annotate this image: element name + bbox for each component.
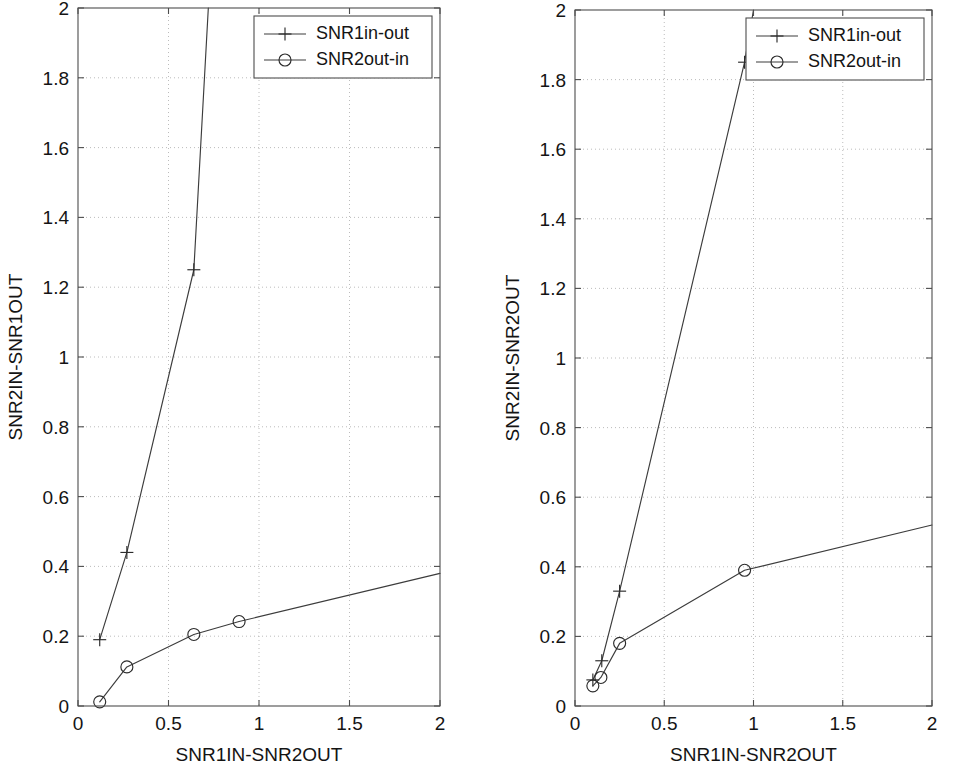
series-snr2out-in	[587, 525, 932, 692]
y-tick-label: 1.2	[43, 277, 69, 298]
grid-lines	[78, 8, 440, 706]
x-tick-label: 0.5	[155, 713, 181, 734]
plot-area-left: 00.511.5200.20.40.60.811.21.41.61.82SNR1…	[0, 0, 500, 773]
y-tick-label: 0.8	[43, 417, 69, 438]
series-snr1in-out	[93, 8, 208, 646]
legend-label: SNR2out-in	[808, 51, 901, 71]
x-tick-label: 1	[748, 713, 759, 734]
y-tick-label: 1.6	[540, 139, 566, 160]
series-group	[93, 8, 440, 708]
y-axis-title: SNR2IN-SNR1OUT	[5, 273, 26, 440]
chart-panel-left: 00.511.5200.20.40.60.811.21.41.61.82SNR1…	[0, 0, 500, 773]
y-tick-label: 0.2	[43, 626, 69, 647]
y-tick-label: 0.4	[540, 557, 567, 578]
legend-label: SNR1in-out	[316, 23, 409, 43]
y-tick-label: 1.6	[43, 138, 69, 159]
legend-label: SNR2out-in	[316, 49, 409, 69]
x-axis-title: SNR1IN-SNR2OUT	[176, 744, 343, 765]
x-tick-label: 0	[73, 713, 84, 734]
y-tick-label: 1.8	[43, 68, 69, 89]
y-tick-label: 0	[58, 696, 69, 717]
x-tick-label: 1.5	[830, 713, 856, 734]
x-tick-label: 0.5	[651, 713, 677, 734]
y-tick-label: 0.6	[43, 487, 69, 508]
series-path	[593, 525, 932, 686]
tick-labels: 00.511.5200.20.40.60.811.21.41.61.82	[43, 0, 446, 734]
y-axis-title: SNR2IN-SNR2OUT	[502, 274, 523, 441]
legend: SNR1in-outSNR2out-in	[254, 16, 432, 78]
y-tick-label: 0.2	[540, 626, 566, 647]
grid-lines	[575, 10, 932, 706]
series-group	[586, 10, 932, 692]
legend-label: SNR1in-out	[808, 25, 901, 45]
y-tick-label: 1.8	[540, 70, 566, 91]
x-tick-label: 2	[927, 713, 938, 734]
series-snr1in-out	[586, 10, 753, 686]
x-tick-label: 2	[435, 713, 446, 734]
series-path	[100, 573, 440, 701]
x-tick-label: 1	[254, 713, 265, 734]
tick-labels: 00.511.5200.20.40.60.811.21.41.61.82	[540, 0, 938, 734]
y-tick-label: 0	[555, 696, 566, 717]
y-tick-label: 1.2	[540, 278, 566, 299]
x-tick-label: 1.5	[336, 713, 362, 734]
y-tick-label: 1.4	[43, 207, 70, 228]
figure-container: 00.511.5200.20.40.60.811.21.41.61.82SNR1…	[0, 0, 954, 773]
y-tick-label: 2	[555, 0, 566, 21]
series-snr2out-in	[94, 573, 440, 707]
chart-panel-right: 00.511.5200.20.40.60.811.21.41.61.82SNR1…	[497, 0, 954, 773]
y-tick-label: 1.4	[540, 209, 567, 230]
y-tick-label: 0.8	[540, 418, 566, 439]
x-axis-title: SNR1IN-SNR2OUT	[670, 744, 837, 765]
series-path	[100, 8, 209, 640]
y-tick-label: 1	[58, 347, 69, 368]
y-tick-label: 2	[58, 0, 69, 19]
plot-area-right: 00.511.5200.20.40.60.811.21.41.61.82SNR1…	[497, 0, 954, 773]
legend: SNR1in-outSNR2out-in	[746, 18, 924, 80]
y-tick-label: 0.4	[43, 556, 70, 577]
x-tick-label: 0	[570, 713, 581, 734]
y-tick-label: 0.6	[540, 487, 566, 508]
y-tick-label: 1	[555, 348, 566, 369]
